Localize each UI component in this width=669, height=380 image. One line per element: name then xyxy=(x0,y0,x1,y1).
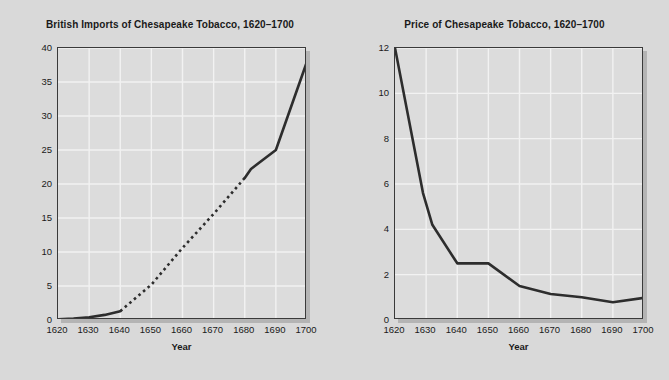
y-tick-label: 30 xyxy=(26,110,52,121)
y-tick-label: 0 xyxy=(363,314,389,325)
y-tick-label: 4 xyxy=(363,223,389,234)
x-tick-label: 1660 xyxy=(502,324,536,335)
y-tick-label: 15 xyxy=(26,212,52,223)
plot-area-imports xyxy=(57,47,306,319)
imports-line-chart xyxy=(58,48,306,319)
x-tick-label: 1700 xyxy=(289,324,323,335)
y-tick-label: 0 xyxy=(26,314,52,325)
x-tick-label: 1700 xyxy=(626,324,660,335)
y-tick-label: 20 xyxy=(26,178,52,189)
x-axis-title-price: Year xyxy=(394,341,643,352)
x-tick-label: 1670 xyxy=(196,324,230,335)
x-tick-label: 1620 xyxy=(40,324,74,335)
plot-area-price xyxy=(394,47,643,319)
x-tick-label: 1620 xyxy=(377,324,411,335)
price-line-chart xyxy=(395,48,643,319)
figure-canvas: British Imports of Chesapeake Tobacco, 1… xyxy=(0,0,669,380)
x-tick-label: 1680 xyxy=(227,324,261,335)
chart-title-price: Price of Chesapeake Tobacco, 1620–1700 xyxy=(340,19,669,30)
y-tick-label: 12 xyxy=(363,42,389,53)
y-tick-label: 2 xyxy=(363,268,389,279)
x-tick-label: 1640 xyxy=(102,324,136,335)
y-tick-label: 25 xyxy=(26,144,52,155)
plot-region-price: Pence Sterling per Pound 0 2 4 6 8 10 12… xyxy=(394,47,643,319)
x-tick-label: 1690 xyxy=(595,324,629,335)
y-tick-label: 35 xyxy=(26,76,52,87)
x-tick-label: 1660 xyxy=(165,324,199,335)
chart-title-imports: British Imports of Chesapeake Tobacco, 1… xyxy=(0,19,340,30)
x-axis-title-imports: Year xyxy=(57,341,306,352)
x-tick-label: 1640 xyxy=(439,324,473,335)
chart-panel-imports: British Imports of Chesapeake Tobacco, 1… xyxy=(0,0,340,380)
y-tick-label: 5 xyxy=(26,280,52,291)
chart-panel-price: Price of Chesapeake Tobacco, 1620–1700 P… xyxy=(340,0,669,380)
y-tick-label: 40 xyxy=(26,42,52,53)
x-tick-label: 1630 xyxy=(71,324,105,335)
plot-region-imports: Millions of Pounds 0 5 10 15 20 25 30 35… xyxy=(57,47,306,319)
x-tick-label: 1670 xyxy=(533,324,567,335)
x-tick-label: 1690 xyxy=(258,324,292,335)
x-tick-label: 1650 xyxy=(470,324,504,335)
y-tick-label: 6 xyxy=(363,178,389,189)
gridlines xyxy=(58,48,306,319)
x-tick-label: 1650 xyxy=(133,324,167,335)
y-tick-label: 8 xyxy=(363,132,389,143)
x-tick-label: 1680 xyxy=(564,324,598,335)
x-tick-label: 1630 xyxy=(408,324,442,335)
y-tick-label: 10 xyxy=(26,246,52,257)
y-tick-label: 10 xyxy=(363,87,389,98)
gridlines xyxy=(395,48,643,319)
